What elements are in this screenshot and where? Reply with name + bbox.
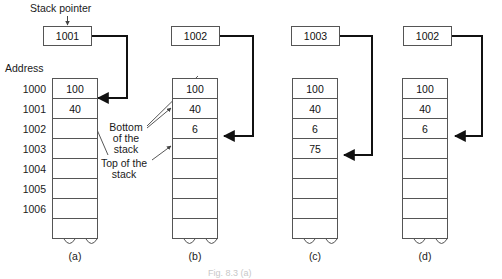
panel-a-memory-cell (53, 219, 97, 239)
panel-a-stack-pointer-box: 1001 (43, 26, 92, 46)
panel-a-memory-cell (53, 159, 97, 179)
panel-c-memory-cell: 100 (293, 79, 337, 99)
panel-a-memory-cell: 40 (53, 99, 97, 119)
panel-d-memory-cell: 40 (403, 99, 447, 119)
panel-c-memory-cell: 40 (293, 99, 337, 119)
panel-b-pointer-arrow (220, 36, 253, 136)
panel-d-memory-column: 100406 (402, 78, 448, 239)
panel-c-label: (c) (292, 250, 338, 262)
bottom-of-stack-annotation: Bottom of the stack (104, 122, 148, 155)
panel-b-stack-pointer-box: 1002 (171, 26, 220, 46)
panel-d-memory-cell: 6 (403, 119, 447, 139)
panel-d-memory-cell (403, 219, 447, 239)
panel-a-memory-cell (53, 199, 97, 219)
address-label-1000: 1000 (8, 83, 46, 95)
panel-b-memory-cell (173, 179, 217, 199)
panel-b-label: (b) (172, 250, 218, 262)
stack-pointer-label: Stack pointer (30, 3, 91, 15)
panel-c-stack-pointer-box: 1003 (291, 26, 340, 46)
panel-d-memory-cell (403, 159, 447, 179)
panel-c-memory-cell (293, 179, 337, 199)
address-label: Address (5, 63, 44, 75)
panel-a-memory-cell (53, 179, 97, 199)
panel-b-memory-cell (173, 159, 217, 179)
address-label-1006: 1006 (8, 203, 46, 215)
panel-a-stack-pointer-value: 1001 (56, 30, 79, 42)
panel-d-memory-cell: 100 (403, 79, 447, 99)
panel-a-memory-column: 10040 (52, 78, 98, 239)
panel-b-memory-cell: 6 (173, 119, 217, 139)
panel-d-label: (d) (402, 250, 448, 262)
panel-d-memory-cell (403, 199, 447, 219)
panel-c-memory-cell: 75 (293, 139, 337, 159)
panel-c-memory-cell (293, 219, 337, 239)
top-of-stack-annotation: Top of the stack (100, 158, 148, 180)
panel-d-pointer-arrow (452, 36, 482, 136)
bottom-of-stack-leader-b (147, 108, 171, 128)
panel-b-memory-cell (173, 139, 217, 159)
panel-d-memory-cell (403, 179, 447, 199)
address-label-1005: 1005 (8, 183, 46, 195)
panel-a-memory-cell: 100 (53, 79, 97, 99)
panel-a-memory-cell (53, 119, 97, 139)
panel-c-memory-cell: 6 (293, 119, 337, 139)
address-label-1001: 1001 (8, 103, 46, 115)
panel-c-memory-cell (293, 199, 337, 219)
panel-c-pointer-arrow (340, 36, 372, 155)
panel-d-memory-cell (403, 139, 447, 159)
panel-c-stack-pointer-value: 1003 (304, 30, 327, 42)
panel-a-label: (a) (52, 250, 98, 262)
address-label-1002: 1002 (8, 123, 46, 135)
panel-b-memory-column: 100406 (172, 78, 218, 239)
panel-c-memory-cell (293, 159, 337, 179)
figure-caption: Fig. 8.3 (a) (208, 268, 252, 278)
address-label-1004: 1004 (8, 163, 46, 175)
address-label-1003: 1003 (8, 143, 46, 155)
panel-a-memory-cell (53, 139, 97, 159)
panel-b-memory-cell: 100 (173, 79, 217, 99)
panel-d-stack-pointer-value: 1002 (416, 30, 439, 42)
top-of-stack-leader-b (152, 146, 171, 160)
panel-b-memory-cell (173, 219, 217, 239)
panel-b-memory-cell (173, 199, 217, 219)
panel-b-stack-pointer-value: 1002 (184, 30, 207, 42)
panel-b-memory-cell: 40 (173, 99, 217, 119)
panel-c-memory-column: 10040675 (292, 78, 338, 239)
panel-d-stack-pointer-box: 1002 (403, 26, 452, 46)
stack-diagram-figure: Stack pointer Address Bottom of the stac… (0, 0, 502, 279)
